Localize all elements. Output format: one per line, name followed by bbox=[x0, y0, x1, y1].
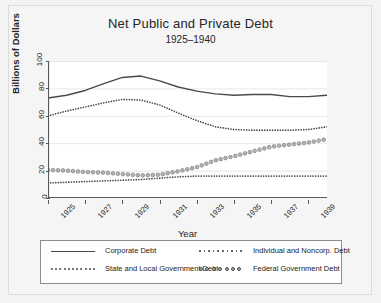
legend-key-icon bbox=[47, 245, 99, 259]
y-axis-title: Billions of Dollars bbox=[10, 0, 21, 122]
legend-label: Federal Government Debt bbox=[253, 264, 340, 273]
chart-legend: Corporate DebtIndividual and Noncorp. De… bbox=[40, 240, 342, 284]
x-tick-mark bbox=[160, 200, 161, 204]
x-tick-mark bbox=[197, 200, 198, 204]
legend-key-icon bbox=[195, 245, 247, 259]
legend-key-icon bbox=[47, 263, 99, 277]
x-tick-label: 1925 bbox=[59, 202, 77, 220]
chart-subtitle: 1925–1940 bbox=[0, 34, 381, 45]
x-tick-label: 1929 bbox=[133, 202, 151, 220]
x-tick-label: 1937 bbox=[282, 202, 300, 220]
y-tick-label: 20 bbox=[24, 165, 46, 174]
x-tick-mark bbox=[234, 200, 235, 204]
series-dots-1 bbox=[48, 99, 327, 131]
legend-label: Corporate Debt bbox=[105, 246, 156, 255]
legend-key-icon bbox=[195, 263, 247, 277]
x-axis-ticks: 19251927192919311933193519371939 bbox=[48, 200, 333, 228]
y-axis-ticks: 020406080100 bbox=[22, 61, 46, 198]
x-tick-label: 1933 bbox=[208, 202, 226, 220]
x-axis-title: Year bbox=[48, 228, 327, 239]
x-tick-mark bbox=[48, 200, 49, 204]
x-tick-label: 1935 bbox=[245, 202, 263, 220]
series-dots-2 bbox=[48, 175, 327, 184]
legend-label: Individual and Noncorp. Debt bbox=[253, 246, 350, 255]
series-line-0 bbox=[48, 76, 327, 98]
x-tick-label: 1927 bbox=[96, 202, 114, 220]
x-tick-mark bbox=[122, 200, 123, 204]
y-tick-label: 60 bbox=[24, 110, 46, 119]
y-tick-label: 100 bbox=[24, 55, 46, 64]
y-tick-label: 0 bbox=[24, 192, 46, 201]
y-tick-label: 40 bbox=[24, 137, 46, 146]
x-tick-mark bbox=[271, 200, 272, 204]
chart-title: Net Public and Private Debt bbox=[0, 16, 381, 31]
chart-figure: Net Public and Private Debt 1925–1940 Bi… bbox=[0, 0, 381, 303]
y-tick-mark bbox=[46, 198, 50, 199]
y-tick-label: 80 bbox=[24, 82, 46, 91]
plot-area bbox=[48, 61, 327, 198]
x-tick-label: 1931 bbox=[170, 202, 188, 220]
x-tick-mark bbox=[85, 200, 86, 204]
series-canvas bbox=[48, 61, 327, 198]
x-tick-mark bbox=[308, 200, 309, 204]
